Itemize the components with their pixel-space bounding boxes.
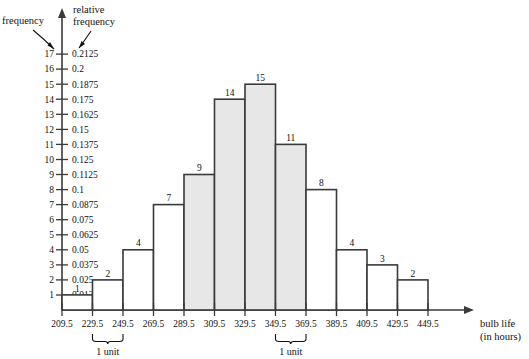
y-tick-relative-frequency: 0.125 — [72, 155, 94, 165]
x-tick-label: 289.5 — [173, 319, 195, 329]
relative-frequency-leader-arrowhead — [79, 41, 85, 48]
bar-bin-1[interactable] — [62, 295, 93, 310]
y-tick-relative-frequency: 0.0875 — [72, 200, 98, 210]
x-tick-label: 409.5 — [356, 319, 378, 329]
bar-label: 4 — [136, 238, 141, 248]
bar-bin-5[interactable] — [184, 175, 215, 311]
bar-bin-2[interactable] — [93, 280, 124, 310]
bar-bin-8[interactable] — [276, 144, 307, 310]
y-tick-frequency: 5 — [49, 230, 54, 240]
unit-bracket-label: 1 unit — [279, 346, 302, 357]
bar-bin-3[interactable] — [123, 250, 154, 310]
bar-label: 15 — [256, 73, 266, 83]
bar-label: 14 — [225, 88, 235, 98]
x-tick-label: 209.5 — [51, 319, 73, 329]
y-tick-frequency: 3 — [49, 260, 54, 270]
y-tick-frequency: 14 — [45, 95, 55, 105]
y-tick-frequency: 15 — [45, 80, 55, 90]
x-tick-label: 329.5 — [234, 319, 256, 329]
bar-label: 1 — [75, 284, 80, 294]
frequency-axis-title: frequency — [2, 15, 45, 26]
x-axis-tick-labels: 209.5 229.5 249.5 269.5 289.5 309.5 329.… — [51, 319, 439, 329]
histogram-figure: frequency relative frequency 1 2 3 4 5 — [0, 0, 529, 359]
y-axis-relative-frequency-labels: 0.0125 0.025 0.0375 0.05 0.0625 0.075 0.… — [72, 49, 98, 300]
y-axis-frequency-labels: 1 2 3 4 5 6 7 8 9 10 11 12 13 14 15 16 1… — [45, 49, 55, 300]
unit-bracket-right: 1 unit — [276, 334, 307, 357]
y-tick-frequency: 12 — [45, 125, 55, 135]
histogram-bars — [62, 84, 428, 310]
bar-label: 2 — [410, 269, 415, 279]
bar-bin-4[interactable] — [154, 205, 185, 310]
y-tick-relative-frequency: 0.15 — [72, 125, 89, 135]
bar-bin-9[interactable] — [306, 190, 337, 310]
bar-label: 11 — [286, 133, 295, 143]
y-tick-frequency: 9 — [49, 170, 54, 180]
y-tick-frequency: 4 — [49, 245, 54, 255]
y-tick-frequency: 13 — [45, 110, 55, 120]
y-tick-frequency: 16 — [45, 64, 55, 74]
y-tick-relative-frequency: 0.175 — [72, 95, 94, 105]
y-tick-relative-frequency: 0.2 — [72, 64, 84, 74]
bar-bin-6[interactable] — [215, 99, 246, 310]
bar-label: 9 — [197, 163, 202, 173]
bar-bin-11[interactable] — [367, 265, 398, 310]
unit-bracket-label: 1 unit — [96, 346, 119, 357]
y-tick-frequency: 11 — [45, 140, 54, 150]
y-tick-relative-frequency: 0.2125 — [72, 49, 98, 59]
x-tick-label: 389.5 — [326, 319, 348, 329]
y-tick-frequency: 17 — [45, 49, 55, 59]
relative-frequency-axis-title-line2: frequency — [73, 16, 116, 27]
x-tick-label: 429.5 — [387, 319, 409, 329]
y-tick-relative-frequency: 0.1375 — [72, 140, 98, 150]
x-tick-label: 249.5 — [112, 319, 134, 329]
bar-label: 4 — [349, 238, 354, 248]
y-axis-arrowhead — [58, 8, 66, 18]
y-tick-frequency: 1 — [49, 290, 54, 300]
bar-label: 3 — [380, 254, 385, 264]
y-tick-frequency: 6 — [49, 215, 54, 225]
bar-label: 2 — [105, 269, 110, 279]
x-axis-arrowhead — [464, 306, 474, 314]
bar-bin-7[interactable] — [245, 84, 276, 310]
y-tick-relative-frequency: 0.05 — [72, 245, 89, 255]
y-tick-relative-frequency: 0.1625 — [72, 110, 98, 120]
y-tick-relative-frequency: 0.075 — [72, 215, 94, 225]
x-tick-label: 449.5 — [417, 319, 439, 329]
y-tick-relative-frequency: 0.1125 — [72, 170, 98, 180]
bar-label: 8 — [319, 178, 324, 188]
y-tick-relative-frequency: 0.1 — [72, 185, 84, 195]
bar-bin-12[interactable] — [398, 280, 429, 310]
bar-bin-10[interactable] — [337, 250, 368, 310]
y-tick-frequency: 2 — [49, 275, 54, 285]
y-tick-relative-frequency: 0.0375 — [72, 260, 98, 270]
y-tick-relative-frequency: 0.1875 — [72, 80, 98, 90]
x-tick-label: 349.5 — [265, 319, 287, 329]
bar-label: 7 — [166, 193, 171, 203]
x-axis-title-line2: (in hours) — [480, 331, 522, 343]
x-tick-label: 369.5 — [295, 319, 317, 329]
x-axis-title-line1: bulb life — [480, 318, 516, 329]
relative-frequency-axis-title-line1: relative — [73, 4, 105, 15]
x-tick-label: 229.5 — [82, 319, 104, 329]
y-tick-frequency: 8 — [49, 185, 54, 195]
y-tick-relative-frequency: 0.0625 — [72, 230, 98, 240]
y-tick-frequency: 7 — [49, 200, 54, 210]
x-tick-label: 269.5 — [143, 319, 165, 329]
x-tick-label: 309.5 — [204, 319, 226, 329]
y-tick-frequency: 10 — [45, 155, 55, 165]
unit-bracket-left: 1 unit — [93, 334, 124, 357]
